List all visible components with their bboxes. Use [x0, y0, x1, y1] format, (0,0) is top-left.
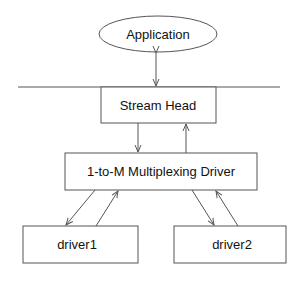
- driver2-label: driver2: [212, 237, 252, 252]
- arrow-mux-driver1-down: [66, 190, 95, 225]
- streams-multiplexing-diagram: Application Stream Head 1-to-M Multiplex…: [0, 0, 301, 282]
- mux-driver-node: 1-to-M Multiplexing Driver: [65, 153, 257, 190]
- stream-head-node: Stream Head: [101, 87, 216, 123]
- driver1-node: driver1: [23, 226, 138, 263]
- driver1-label: driver1: [57, 237, 97, 252]
- mux-driver-label: 1-to-M Multiplexing Driver: [87, 164, 236, 179]
- application-node: Application: [99, 16, 217, 52]
- stream-head-label: Stream Head: [120, 98, 197, 113]
- driver2-node: driver2: [174, 226, 286, 263]
- arrow-mux-driver2-down: [192, 190, 214, 225]
- arrow-driver1-mux-up: [96, 191, 118, 226]
- application-label: Application: [126, 27, 190, 42]
- arrow-driver2-mux-up: [216, 191, 238, 226]
